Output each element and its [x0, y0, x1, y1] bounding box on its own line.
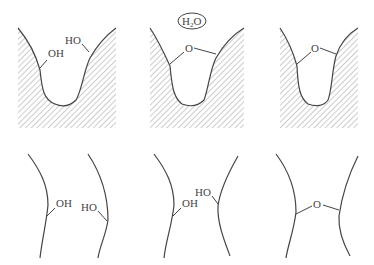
hydroxyl-label-right: HO [81, 201, 97, 213]
panel-4-separate-surfaces: OH HO [28, 154, 108, 258]
oxygen-bridge-label: O [313, 198, 321, 210]
hydroxyl-label-left: OH [48, 47, 64, 59]
panel-5-approaching-surfaces: OH HO [154, 154, 238, 258]
hydroxyl-label-left: OH [182, 197, 198, 209]
hydroxyl-label-right: HO [65, 34, 81, 46]
panel-2-pore-with-bridge: H2O O [150, 13, 244, 128]
water-label: H2O [182, 15, 201, 29]
panel-6-bridged-surfaces: O [276, 154, 358, 258]
hydroxyl-label-left: OH [56, 197, 72, 209]
panel-3-pore-with-bridge: O [280, 28, 358, 128]
oxygen-bridge-label: O [185, 42, 193, 54]
panel-1-pore-with-hydroxyls: OH HO [18, 28, 116, 128]
hydroxyl-label-right: HO [195, 186, 211, 198]
condensation-diagram: OH HO H2O O O OH HO OH HO [0, 0, 374, 265]
oxygen-bridge-label: O [311, 42, 319, 54]
